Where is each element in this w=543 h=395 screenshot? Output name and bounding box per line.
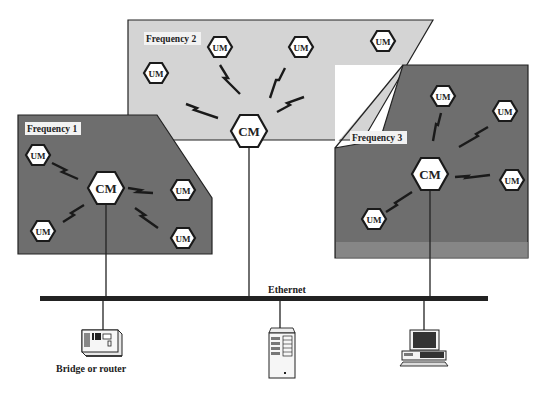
um-node: UM xyxy=(500,170,524,190)
svg-text:UM: UM xyxy=(36,227,51,237)
um-node: UM xyxy=(26,145,50,165)
um-node: UM xyxy=(371,31,395,51)
um-node: UM xyxy=(289,37,313,57)
svg-text:Frequency 1: Frequency 1 xyxy=(27,124,77,134)
svg-text:CM: CM xyxy=(419,167,441,182)
svg-text:UM: UM xyxy=(498,107,513,117)
svg-text:Frequency 3: Frequency 3 xyxy=(352,133,402,143)
ethernet-label: Ethernet xyxy=(268,284,306,295)
frequency-1-label: Frequency 1 xyxy=(25,122,81,135)
um-node: UM xyxy=(144,63,168,83)
svg-text:UM: UM xyxy=(376,37,391,47)
um-node: UM xyxy=(31,221,55,241)
cm-node-2: CM xyxy=(231,115,267,147)
workstation-icon xyxy=(400,330,448,366)
um-node: UM xyxy=(362,209,386,229)
cm-node-3: CM xyxy=(412,158,448,190)
um-node: UM xyxy=(208,37,232,57)
um-node: UM xyxy=(431,86,455,106)
svg-text:UM: UM xyxy=(213,43,228,53)
um-node: UM xyxy=(171,180,195,200)
svg-text:UM: UM xyxy=(149,69,164,79)
ethernet-bus xyxy=(40,296,488,301)
svg-text:Frequency 2: Frequency 2 xyxy=(146,34,196,44)
network-diagram: Ethernet Frequency 1 Frequency 2 Frequen… xyxy=(0,0,543,395)
svg-text:UM: UM xyxy=(294,43,309,53)
svg-text:UM: UM xyxy=(505,176,520,186)
svg-text:UM: UM xyxy=(367,215,382,225)
svg-text:UM: UM xyxy=(31,151,46,161)
frequency-3-label: Frequency 3 xyxy=(350,131,407,144)
um-node: UM xyxy=(171,228,195,248)
svg-text:UM: UM xyxy=(176,186,191,196)
cm-node-1: CM xyxy=(88,172,124,204)
server-icon xyxy=(269,328,295,378)
bridge-router-icon xyxy=(82,330,122,356)
frequency-2-label: Frequency 2 xyxy=(144,32,201,45)
svg-text:CM: CM xyxy=(238,124,260,139)
bridge-router-label: Bridge or router xyxy=(56,363,127,374)
svg-text:UM: UM xyxy=(176,234,191,244)
svg-text:CM: CM xyxy=(95,181,117,196)
um-node: UM xyxy=(493,101,517,121)
svg-text:UM: UM xyxy=(436,92,451,102)
